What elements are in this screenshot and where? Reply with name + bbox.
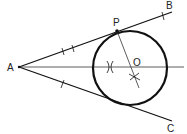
label-b: B xyxy=(166,0,173,11)
ray-ab xyxy=(19,12,172,67)
point-a xyxy=(18,66,20,68)
tick-mark xyxy=(61,80,64,88)
point-p xyxy=(115,29,119,33)
label-o: O xyxy=(133,57,141,68)
geometry-diagram: A B P O C xyxy=(0,0,187,134)
ray-ac xyxy=(19,67,172,121)
label-p: P xyxy=(113,17,120,28)
label-a: A xyxy=(7,62,14,73)
label-c: C xyxy=(167,123,174,134)
inscribed-circle xyxy=(93,31,167,105)
